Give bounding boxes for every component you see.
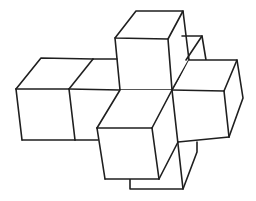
front-cube	[97, 90, 183, 189]
cube-drawing	[0, 0, 256, 201]
back-cube	[182, 36, 206, 60]
polycube-figure	[0, 0, 256, 201]
left-outer-cube	[16, 58, 93, 140]
